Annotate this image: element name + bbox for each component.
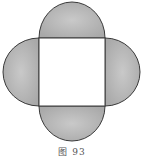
top-semicircle — [39, 2, 105, 38]
figure-caption: 图 93 — [0, 146, 144, 158]
square-with-four-semicircles-figure — [0, 0, 144, 145]
center-square — [39, 38, 105, 106]
left-semicircle — [3, 38, 39, 106]
bottom-semicircle — [39, 106, 105, 141]
right-semicircle — [105, 38, 140, 106]
